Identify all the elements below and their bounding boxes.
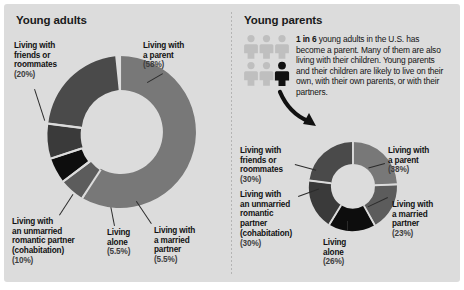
label-living-alone: Living alone (5.5%) xyxy=(107,228,149,257)
curved-arrow-svg xyxy=(276,88,332,134)
curved-arrow-icon xyxy=(276,88,332,134)
intro-lead-stat: 1 in 6 xyxy=(296,34,317,44)
panel-title-young-adults: Young adults xyxy=(16,14,87,26)
person-icon-3 xyxy=(275,35,289,59)
slice-living-with-friends-or-roommates xyxy=(310,142,353,183)
person-icon-1 xyxy=(244,35,258,59)
label-living-with-a-parent: Living with a parent (58%) xyxy=(143,41,223,70)
label-living-alone: Living alone (26%) xyxy=(323,238,367,267)
label-living-with-unmarried-romantic-partner: Living with an unmarried romantic partne… xyxy=(12,217,116,266)
panel-title-young-parents: Young parents xyxy=(244,14,322,26)
label-living-with-friends-or-roommates: Living with friends or roommates (20%) xyxy=(14,41,100,80)
label-living-with-a-parent: Living with a parent (38%) xyxy=(388,146,458,175)
person-icon-5 xyxy=(260,62,274,86)
leader-line-alone xyxy=(347,221,348,231)
label-living-with-unmarried-romantic-partner: Living with an unmarried romantic partne… xyxy=(240,190,318,248)
label-living-with-a-married-partner: Living with a married partner (23%) xyxy=(392,200,458,239)
people-pictogram-svg xyxy=(244,34,292,86)
infographic-panel: Young adults xyxy=(4,4,460,282)
young-adults-panel: Young adults xyxy=(4,4,232,282)
people-pictogram xyxy=(244,34,292,86)
donut-svg xyxy=(307,140,399,232)
label-living-with-a-married-partner: Living with a married partner (5.5%) xyxy=(154,226,224,265)
person-icon-6-highlighted xyxy=(275,62,289,86)
person-icon-2 xyxy=(260,35,274,59)
young-parents-donut-chart xyxy=(307,140,399,232)
young-parents-panel: Young parents xyxy=(232,4,460,282)
person-icon-4 xyxy=(244,62,258,86)
